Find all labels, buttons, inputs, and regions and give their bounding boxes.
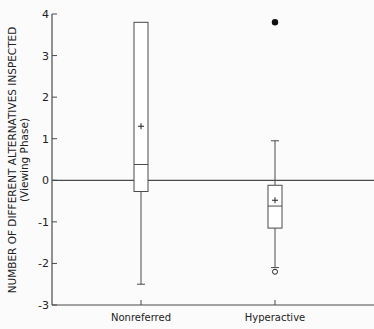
y-tick-label: 0 [42, 174, 49, 187]
outlier-filled [272, 19, 278, 25]
box-plot: 43210-1-2-3NonreferredHyperactive [0, 0, 374, 329]
box [268, 185, 282, 228]
y-axis-title: NUMBER OF DIFFERENT ALTERNATIVES INSPECT… [6, 27, 18, 294]
box [134, 22, 148, 191]
y-axis-label: NUMBER OF DIFFERENT ALTERNATIVES INSPECT… [7, 27, 30, 294]
x-tick-label: Hyperactive [245, 312, 305, 323]
x-tick-label: Nonreferred [111, 312, 171, 323]
chart-container: 43210-1-2-3NonreferredHyperactive NUMBER… [0, 0, 374, 329]
y-tick-label: -3 [38, 299, 49, 312]
y-axis-subtitle: (Viewing Phase) [18, 27, 30, 294]
y-tick-label: 1 [42, 133, 49, 146]
y-tick-label: 4 [42, 8, 49, 21]
y-tick-label: 2 [42, 91, 49, 104]
outlier-open [273, 269, 278, 274]
y-tick-label: 3 [42, 50, 49, 63]
y-axis-label-container: NUMBER OF DIFFERENT ALTERNATIVES INSPECT… [0, 0, 36, 329]
y-tick-label: -2 [38, 257, 49, 270]
y-tick-label: -1 [38, 216, 49, 229]
